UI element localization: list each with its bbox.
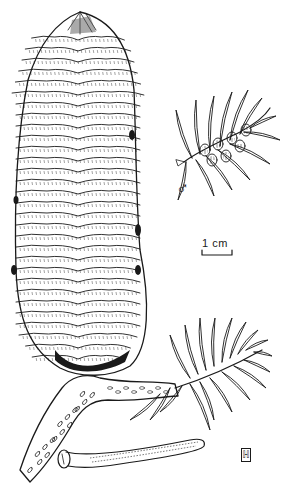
hatch-mark <box>89 50 90 53</box>
hatch-mark <box>108 314 109 317</box>
hatch-mark <box>88 325 89 328</box>
hatch-mark <box>124 237 125 240</box>
male-branch-needle <box>176 110 192 158</box>
hatch-mark <box>88 270 89 273</box>
hatch-mark <box>44 39 45 42</box>
hatch-mark <box>47 336 48 339</box>
hatch-mark <box>124 160 125 163</box>
hatch-mark <box>128 303 129 306</box>
hatch-mark <box>91 336 92 339</box>
hatch-mark <box>108 237 109 240</box>
hatch-mark <box>48 215 49 218</box>
bark-mark <box>37 459 43 466</box>
hatch-mark <box>108 204 109 207</box>
hatch-mark <box>40 270 41 273</box>
hatch-mark <box>43 336 44 339</box>
hatch-mark <box>28 325 29 328</box>
cone-scale-row <box>16 289 140 293</box>
hatch-mark <box>56 237 57 240</box>
hatch-mark <box>72 226 73 229</box>
hatch-mark <box>68 226 69 229</box>
hatch-mark <box>100 226 101 229</box>
hatch-mark <box>40 281 41 284</box>
hatch-mark <box>52 149 53 152</box>
hatch-mark <box>32 127 33 130</box>
hatch-mark <box>64 281 65 284</box>
hatch-mark <box>64 182 65 185</box>
bark-mark <box>34 451 40 458</box>
hatch-mark <box>64 149 65 152</box>
cone-scale-row <box>16 157 140 161</box>
hatch-mark <box>104 160 105 163</box>
hatch-mark <box>53 50 54 53</box>
hatch-mark <box>48 358 49 361</box>
hatch-mark <box>96 193 97 196</box>
hatch-mark <box>72 193 73 196</box>
needle <box>130 394 160 420</box>
hatch-mark <box>104 39 105 42</box>
hatch-mark <box>24 325 25 328</box>
hatch-mark <box>88 182 89 185</box>
hatch-mark <box>56 204 57 207</box>
hatch-mark <box>116 325 117 328</box>
hatch-mark <box>112 237 113 240</box>
hatch-mark <box>44 149 45 152</box>
hatch-mark <box>58 347 59 350</box>
hatch-mark <box>136 204 137 207</box>
hatch-mark <box>44 193 45 196</box>
hatch-mark <box>88 248 89 251</box>
hatch-mark <box>108 303 109 306</box>
hatch-mark <box>96 182 97 185</box>
hatch-mark <box>96 314 97 317</box>
hatch-mark <box>28 149 29 152</box>
cone-scale-row <box>16 278 140 282</box>
hatch-mark <box>108 94 109 97</box>
hatch-mark <box>39 336 40 339</box>
hatch-mark <box>102 347 103 350</box>
hatch-mark <box>27 336 28 339</box>
hatch-mark <box>84 215 85 218</box>
hatch-mark <box>108 39 109 42</box>
hatch-mark <box>84 237 85 240</box>
hatch-mark <box>128 138 129 141</box>
hatch-mark <box>36 138 37 141</box>
hatch-mark <box>63 83 64 86</box>
hatch-mark <box>116 182 117 185</box>
hatch-mark <box>52 94 53 97</box>
hatch-mark <box>121 50 122 53</box>
hatch-mark <box>94 61 95 64</box>
hatch-mark <box>19 83 20 86</box>
hatch-mark <box>92 105 93 108</box>
hatch-mark <box>99 72 100 75</box>
hatch-mark <box>44 94 45 97</box>
hatch-mark <box>48 292 49 295</box>
hatch-mark <box>96 39 97 42</box>
hatch-mark <box>123 336 124 339</box>
hatch-mark <box>88 314 89 317</box>
hatch-mark <box>72 292 73 295</box>
hatch-mark <box>57 50 58 53</box>
hatch-mark <box>60 314 61 317</box>
hatch-mark <box>70 347 71 350</box>
hatch-mark <box>60 171 61 174</box>
hatch-mark <box>40 248 41 251</box>
hatch-mark <box>126 61 127 64</box>
hatch-mark <box>115 72 116 75</box>
hatch-mark <box>112 226 113 229</box>
hatch-mark <box>87 72 88 75</box>
hatch-mark <box>132 171 133 174</box>
hatch-mark <box>99 83 100 86</box>
hatch-mark <box>48 237 49 240</box>
hatch-mark <box>84 171 85 174</box>
hatch-mark <box>44 160 45 163</box>
male-cone-shading <box>229 134 235 142</box>
male-cone-shading <box>237 142 243 150</box>
hatch-mark <box>92 116 93 119</box>
hatch-mark <box>132 237 133 240</box>
hatch-mark <box>48 94 49 97</box>
hatch-mark <box>60 226 61 229</box>
hatch-mark <box>95 83 96 86</box>
female-cone <box>11 12 147 375</box>
hatch-mark <box>48 259 49 262</box>
hatch-mark <box>88 358 89 361</box>
